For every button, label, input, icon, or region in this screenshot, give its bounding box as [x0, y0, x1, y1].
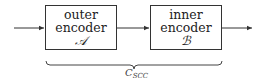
- scc-label-sub: SCC: [133, 72, 149, 80]
- scc-label-main: C: [125, 67, 133, 78]
- outer-encoder-block: outer encoder 𝒜: [45, 5, 117, 50]
- inner-encoder-block: inner encoder ℬ: [150, 5, 222, 50]
- inner-encoder-symbol: ℬ: [181, 34, 191, 47]
- outer-encoder-symbol: 𝒜: [75, 34, 87, 47]
- scc-label: CSCC: [125, 67, 148, 80]
